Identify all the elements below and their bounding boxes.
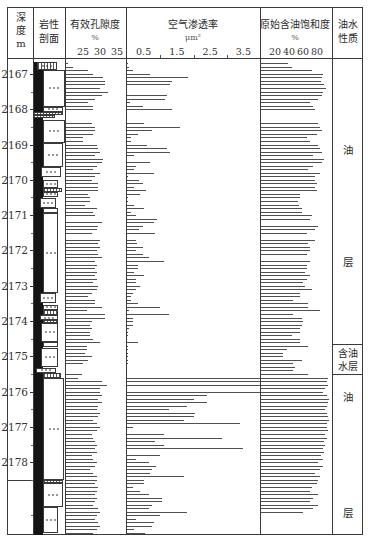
depth-label: 2174 <box>1 316 28 327</box>
permeability-bar <box>127 310 129 311</box>
permeability-bar <box>127 519 136 520</box>
permeability-bar <box>127 81 172 82</box>
permeability-bar <box>127 501 162 502</box>
saturation-bar <box>261 137 307 138</box>
permeability-bar <box>127 332 128 333</box>
porosity-bar <box>66 363 83 364</box>
saturation-bar <box>261 512 303 513</box>
permeability-bar <box>127 480 144 481</box>
sandstone-dots-icon <box>43 316 55 319</box>
saturation-bar <box>261 483 317 484</box>
porosity-bar <box>66 423 97 424</box>
depth-label: 2167 <box>1 69 28 80</box>
porosity-bar <box>66 427 100 428</box>
permeability-bar <box>127 529 134 530</box>
fluid-nature-track: 油层含油水层油层 <box>332 0 363 541</box>
saturation-bar <box>261 169 308 170</box>
fluid-section: 含油水层 <box>332 345 363 375</box>
porosity-bar <box>66 63 68 64</box>
saturation-bar <box>261 381 327 382</box>
porosity-bar <box>66 247 100 248</box>
permeability-bar <box>127 392 260 393</box>
porosity-bar <box>66 522 98 523</box>
permeability-bar <box>127 201 128 202</box>
sandstone-dots-icon <box>45 518 57 521</box>
depth-label: 2168 <box>1 104 28 115</box>
porosity-bar <box>66 173 100 174</box>
saturation-bar <box>261 99 318 100</box>
porosity-bar <box>66 314 105 315</box>
saturation-bar <box>261 318 302 319</box>
saturation-bar <box>261 406 327 407</box>
permeability-bar <box>127 289 136 290</box>
permeability-bar <box>127 194 140 195</box>
saturation-bar <box>261 289 312 290</box>
saturation-bar <box>261 473 315 474</box>
lithology-segment <box>43 213 58 293</box>
porosity-bar <box>66 159 103 160</box>
saturation-bar <box>261 335 292 336</box>
porosity-bar <box>66 95 102 96</box>
porosity-bar <box>66 353 85 354</box>
saturation-bar <box>261 342 300 343</box>
saturation-bar <box>261 250 310 251</box>
depth-label: 2170 <box>1 175 28 186</box>
porosity-bar <box>66 441 95 442</box>
permeability-bar <box>127 360 128 361</box>
permeability-bar <box>127 106 143 107</box>
porosity-bar <box>66 342 100 343</box>
permeability-bar <box>127 438 222 439</box>
saturation-bar <box>261 416 328 417</box>
saturation-bar <box>261 247 310 248</box>
permeability-tick-label: 3.5 <box>236 46 251 57</box>
saturation-bar <box>261 106 313 107</box>
lithology-segment <box>41 348 58 367</box>
permeability-bar <box>127 208 144 209</box>
saturation-bar <box>261 349 287 350</box>
permeability-bar <box>127 173 154 174</box>
porosity-bar <box>66 469 90 470</box>
porosity-bar <box>66 197 90 198</box>
porosity-bar <box>66 519 95 520</box>
porosity-bar <box>66 233 92 234</box>
permeability-bar <box>127 74 150 75</box>
permeability-bar <box>127 378 260 379</box>
permeability-bar <box>127 166 136 167</box>
permeability-bar <box>127 399 194 400</box>
sandstone-dots-icon <box>42 201 54 204</box>
permeability-bar <box>127 462 149 463</box>
porosity-bar <box>66 215 95 216</box>
fluid-label: 含油水层 <box>332 347 363 373</box>
saturation-bar <box>261 127 320 128</box>
permeability-bar <box>127 67 129 68</box>
permeability-bar <box>127 328 129 329</box>
porosity-bar <box>66 134 93 135</box>
porosity-bar <box>66 385 107 386</box>
sandstone-dots-icon <box>47 153 59 156</box>
saturation-bar <box>261 491 310 492</box>
saturation-bar <box>261 346 308 347</box>
porosity-bar <box>66 318 105 319</box>
porosity-bar <box>66 515 97 516</box>
permeability-tick-label: 2.5 <box>203 46 218 57</box>
porosity-bar <box>66 212 93 213</box>
permeability-bar <box>127 342 138 343</box>
porosity-bar <box>66 501 95 502</box>
permeability-bar <box>127 219 157 220</box>
porosity-bar <box>66 349 87 350</box>
saturation-bar <box>261 469 320 470</box>
sandstone-dots-icon <box>45 251 57 254</box>
permeability-bar <box>127 307 160 308</box>
permeability-bar <box>127 296 131 297</box>
porosity-bar <box>66 102 88 103</box>
permeability-bar <box>127 282 136 283</box>
saturation-bar <box>261 155 313 156</box>
saturation-bar <box>261 459 323 460</box>
porosity-bar <box>66 169 93 170</box>
porosity-bar <box>66 476 97 477</box>
lithology-segment <box>40 293 56 303</box>
sandstone-dots-icon <box>48 87 60 90</box>
saturation-bar <box>261 427 327 428</box>
saturation-bar <box>261 159 324 160</box>
saturation-bar <box>261 102 310 103</box>
